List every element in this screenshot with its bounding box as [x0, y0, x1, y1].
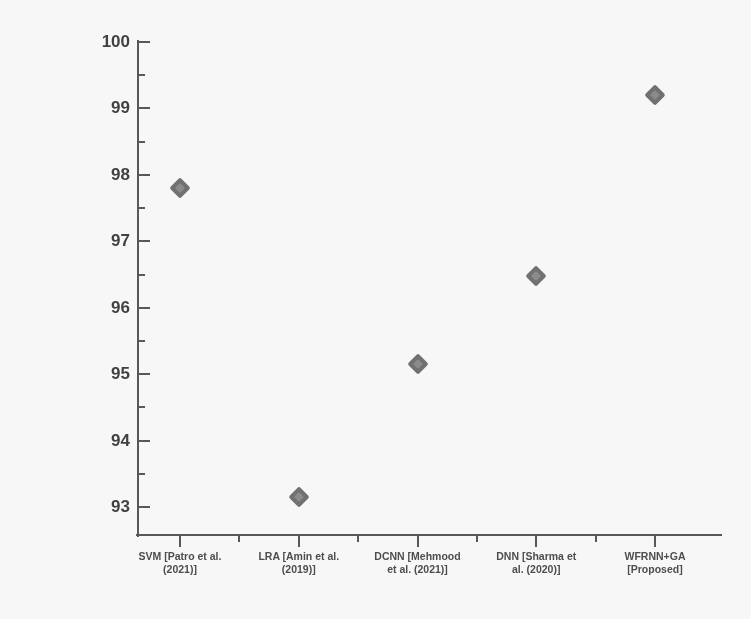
data-point-marker — [526, 265, 547, 286]
y-axis-major-tick — [139, 440, 150, 442]
x-axis-category-label-line: [Proposed] — [592, 563, 718, 576]
x-axis-category-label-line: LRA [Amin et al. — [236, 550, 362, 563]
y-axis-tick-label: 99 — [74, 98, 130, 118]
y-axis-major-tick — [139, 307, 150, 309]
y-axis-minor-tick — [139, 141, 145, 143]
y-axis-minor-tick — [139, 74, 145, 76]
x-axis-category-label: WFRNN+GA[Proposed] — [592, 550, 718, 575]
x-axis-category-label: DNN [Sharma etal. (2020)] — [473, 550, 599, 575]
y-axis-major-tick — [139, 373, 150, 375]
y-axis-minor-tick — [139, 340, 145, 342]
data-point-marker — [407, 354, 428, 375]
y-axis-tick-label: 96 — [74, 298, 130, 318]
y-axis-major-tick — [139, 240, 150, 242]
x-axis-category-label: SVM [Patro et al.(2021)] — [117, 550, 243, 575]
x-axis-major-tick — [417, 536, 419, 547]
chart-figure: F1 score (%) 10099989796959493 SVM [Patr… — [0, 0, 751, 619]
y-axis-minor-tick — [139, 473, 145, 475]
data-point-marker — [644, 85, 665, 106]
x-axis-major-tick — [298, 536, 300, 547]
x-axis-category-label-line: WFRNN+GA — [592, 550, 718, 563]
y-axis-minor-tick — [139, 406, 145, 408]
y-axis-tick-label: 98 — [74, 165, 130, 185]
x-axis-minor-tick — [357, 536, 359, 542]
y-axis-tick-label: 100 — [74, 32, 130, 52]
x-axis-category-label-line: SVM [Patro et al. — [117, 550, 243, 563]
x-axis-category-label-line: DCNN [Mehmood — [355, 550, 481, 563]
y-axis-line — [137, 40, 139, 537]
data-point-marker — [288, 486, 309, 507]
x-axis-minor-tick — [476, 536, 478, 542]
x-axis-line — [136, 534, 722, 536]
y-axis-tick-label: 94 — [74, 431, 130, 451]
y-axis-major-tick — [139, 174, 150, 176]
y-axis-minor-tick — [139, 274, 145, 276]
x-axis-category-label-line: DNN [Sharma et — [473, 550, 599, 563]
x-axis-minor-tick — [238, 536, 240, 542]
y-axis-major-tick — [139, 506, 150, 508]
x-axis-major-tick — [179, 536, 181, 547]
x-axis-category-label-line: (2021)] — [117, 563, 243, 576]
y-axis-tick-label: 97 — [74, 231, 130, 251]
data-point-marker — [169, 178, 190, 199]
y-axis-minor-tick — [139, 207, 145, 209]
x-axis-category-label-line: (2019)] — [236, 563, 362, 576]
x-axis-category-label: DCNN [Mehmoodet al. (2021)] — [355, 550, 481, 575]
x-axis-major-tick — [535, 536, 537, 547]
x-axis-major-tick — [654, 536, 656, 547]
x-axis-category-label-line: al. (2020)] — [473, 563, 599, 576]
y-axis-tick-label: 93 — [74, 497, 130, 517]
x-axis-minor-tick — [595, 536, 597, 542]
x-axis-category-label-line: et al. (2021)] — [355, 563, 481, 576]
y-axis-major-tick — [139, 41, 150, 43]
x-axis-category-label: LRA [Amin et al.(2019)] — [236, 550, 362, 575]
y-axis-tick-label: 95 — [74, 364, 130, 384]
y-axis-major-tick — [139, 107, 150, 109]
